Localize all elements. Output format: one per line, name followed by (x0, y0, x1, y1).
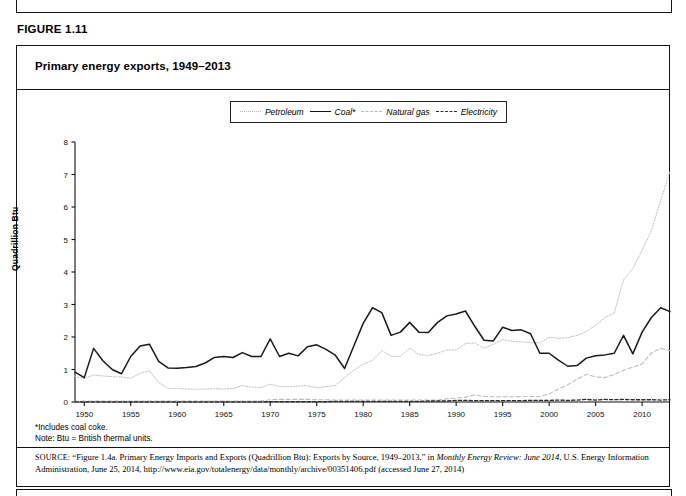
series-line-petroleum (75, 171, 670, 389)
svg-text:1995: 1995 (494, 410, 512, 419)
svg-text:1965: 1965 (215, 410, 233, 419)
svg-text:5: 5 (64, 236, 69, 245)
source-keyword: SOURCE: (35, 453, 70, 462)
figure-box: Primary energy exports, 1949–2013 Petrol… (16, 45, 670, 487)
previous-box-bottom-rule (16, 0, 672, 13)
next-box-top-rule (16, 489, 672, 496)
svg-text:2000: 2000 (540, 410, 558, 419)
svg-text:1970: 1970 (261, 410, 279, 419)
svg-text:1990: 1990 (447, 410, 465, 419)
svg-text:2: 2 (64, 333, 69, 342)
svg-text:8: 8 (64, 138, 69, 147)
svg-text:1975: 1975 (308, 410, 326, 419)
svg-text:1950: 1950 (75, 410, 93, 419)
series-line-coal (75, 308, 670, 378)
svg-text:1980: 1980 (354, 410, 372, 419)
footnote-btu: Note: Btu = British thermal units. (35, 433, 153, 444)
svg-text:2005: 2005 (587, 410, 605, 419)
svg-text:7: 7 (64, 171, 69, 180)
svg-text:2010: 2010 (633, 410, 651, 419)
source-divider (17, 447, 669, 448)
series-line-natural-gas (75, 348, 670, 401)
chart-plot-area: 0123456781950195519601965197019751980198… (17, 46, 669, 486)
source-citation: SOURCE: “Figure 1.4a. Primary Energy Imp… (35, 452, 655, 475)
source-text-part1: “Figure 1.4a. Primary Energy Imports and… (70, 452, 436, 462)
svg-text:1960: 1960 (168, 410, 186, 419)
svg-text:0: 0 (64, 398, 69, 407)
svg-text:1985: 1985 (401, 410, 419, 419)
svg-text:3: 3 (64, 301, 69, 310)
svg-text:4: 4 (64, 268, 69, 277)
figure-page: FIGURE 1.11 Primary energy exports, 1949… (0, 0, 686, 496)
svg-text:1955: 1955 (122, 410, 140, 419)
figure-label: FIGURE 1.11 (17, 23, 88, 35)
source-publication-title: Monthly Energy Review: June 2014 (436, 452, 559, 462)
footnote-coal-coke: *Includes coal coke. (35, 422, 153, 433)
chart-footnotes: *Includes coal coke. Note: Btu = British… (35, 422, 153, 444)
svg-text:6: 6 (64, 203, 69, 212)
svg-text:1: 1 (64, 366, 69, 375)
